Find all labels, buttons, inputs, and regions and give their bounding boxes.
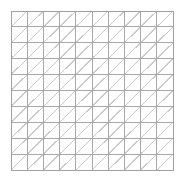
figure-container [0, 0, 184, 181]
grid-diagram [0, 0, 184, 181]
